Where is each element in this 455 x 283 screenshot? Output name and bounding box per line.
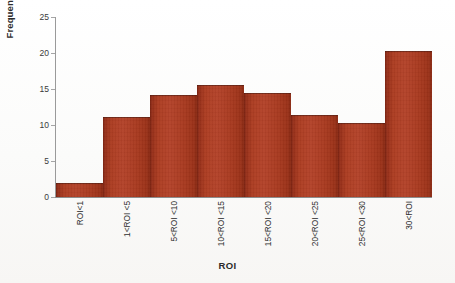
x-label-slot: 15<ROI <20 bbox=[244, 199, 291, 257]
bar[interactable] bbox=[291, 115, 338, 197]
bar-slot bbox=[56, 17, 103, 197]
bar[interactable] bbox=[150, 95, 197, 197]
x-tick-label: ROI<1 bbox=[75, 201, 84, 225]
y-tick-label: 20 bbox=[29, 49, 49, 57]
x-label-slot: 20<ROI <25 bbox=[291, 199, 338, 257]
x-axis-tick-labels: ROI<11<ROI <55<ROI <1010<ROI <1515<ROI <… bbox=[56, 199, 432, 257]
x-label-slot: 30<ROI bbox=[385, 199, 432, 257]
histogram-figure: Frequency (%) 0510152025 ROI<11<ROI <55<… bbox=[0, 0, 455, 283]
x-tick-label: 30<ROI bbox=[404, 201, 413, 230]
y-tick-label: 5 bbox=[29, 157, 49, 165]
bar[interactable] bbox=[197, 85, 244, 197]
x-label-slot: 5<ROI <10 bbox=[150, 199, 197, 257]
bar[interactable] bbox=[338, 123, 385, 197]
bar-slot bbox=[244, 17, 291, 197]
y-tick-mark bbox=[51, 53, 55, 54]
x-tick-label: 5<ROI <10 bbox=[169, 201, 178, 242]
x-tick-label: 1<ROI <5 bbox=[122, 201, 131, 237]
x-axis-title: ROI bbox=[0, 260, 455, 271]
bar[interactable] bbox=[385, 51, 432, 197]
y-tick-mark bbox=[51, 161, 55, 162]
bar-slot bbox=[338, 17, 385, 197]
bar-slot bbox=[197, 17, 244, 197]
y-tick-mark bbox=[51, 17, 55, 18]
y-tick-label: 10 bbox=[29, 121, 49, 129]
plot-area: 0510152025 bbox=[55, 17, 431, 197]
bar[interactable] bbox=[56, 183, 103, 197]
bar-slot bbox=[385, 17, 432, 197]
bar[interactable] bbox=[103, 117, 150, 197]
x-tick-label: 25<ROI <30 bbox=[357, 201, 366, 246]
bar[interactable] bbox=[244, 93, 291, 197]
x-tick-label: 15<ROI <20 bbox=[263, 201, 272, 246]
x-label-slot: 10<ROI <15 bbox=[197, 199, 244, 257]
y-tick-mark bbox=[51, 197, 55, 198]
x-label-slot: 25<ROI <30 bbox=[338, 199, 385, 257]
bar-slot bbox=[103, 17, 150, 197]
y-axis-title: Frequency (%) bbox=[2, 0, 18, 70]
x-tick-label: 10<ROI <15 bbox=[216, 201, 225, 246]
bar-series bbox=[56, 17, 432, 197]
x-label-slot: 1<ROI <5 bbox=[103, 199, 150, 257]
bar-slot bbox=[150, 17, 197, 197]
y-tick-label: 0 bbox=[29, 193, 49, 201]
y-tick-mark bbox=[51, 125, 55, 126]
y-tick-mark bbox=[51, 89, 55, 90]
x-axis-line bbox=[55, 197, 432, 198]
y-tick-label: 15 bbox=[29, 85, 49, 93]
bar-slot bbox=[291, 17, 338, 197]
y-tick-label: 25 bbox=[29, 13, 49, 21]
x-label-slot: ROI<1 bbox=[56, 199, 103, 257]
x-tick-label: 20<ROI <25 bbox=[310, 201, 319, 246]
